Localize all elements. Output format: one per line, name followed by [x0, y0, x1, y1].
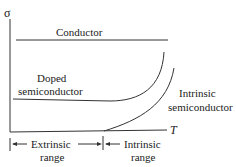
intrinsic-range-line2: range — [131, 151, 156, 163]
x-axis — [10, 130, 167, 132]
doped-label-line2: semiconductor — [18, 85, 83, 97]
intrinsic-label-line2: semiconductor — [168, 101, 233, 113]
intrinsic-semiconductor-curve — [104, 68, 174, 131]
extrinsic-range-line2: range — [40, 151, 65, 163]
extrinsic-arrow-left-head — [12, 142, 17, 146]
conductor-label: Conductor — [56, 26, 103, 38]
doped-label-line1: Doped — [37, 72, 67, 84]
intrinsic-label-line1: Intrinsic — [179, 87, 216, 99]
intrinsic-range-line1: Intrinsic — [124, 138, 161, 150]
extrinsic-arrow-right-head — [97, 142, 102, 146]
conductivity-vs-temperature-diagram: σ T Conductor Doped semiconductor Intrin… — [0, 0, 236, 167]
extrinsic-range-line1: Extrinsic — [31, 138, 71, 150]
intrinsic-arrow-head — [105, 142, 110, 146]
y-axis-label: σ — [4, 6, 11, 20]
x-axis-label: T — [170, 123, 178, 137]
